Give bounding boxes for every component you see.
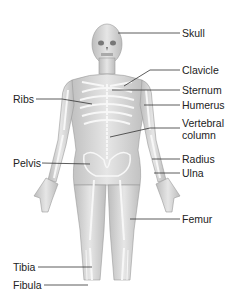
label-clavicle: Clavicle bbox=[182, 64, 219, 76]
label-skull: Skull bbox=[182, 27, 205, 39]
label-vertebral: Vertebral bbox=[182, 117, 224, 129]
label-ribs: Ribs bbox=[13, 93, 34, 105]
label-sternum: Sternum bbox=[182, 84, 222, 96]
label-tibia: Tibia bbox=[13, 261, 35, 273]
label-fibula: Fibula bbox=[13, 279, 42, 291]
label-radius: Radius bbox=[182, 153, 215, 165]
label-column: column bbox=[182, 129, 216, 141]
label-pelvis: Pelvis bbox=[13, 157, 41, 169]
label-ulna: Ulna bbox=[182, 167, 204, 179]
label-humerus: Humerus bbox=[182, 99, 225, 111]
label-femur: Femur bbox=[182, 213, 212, 225]
